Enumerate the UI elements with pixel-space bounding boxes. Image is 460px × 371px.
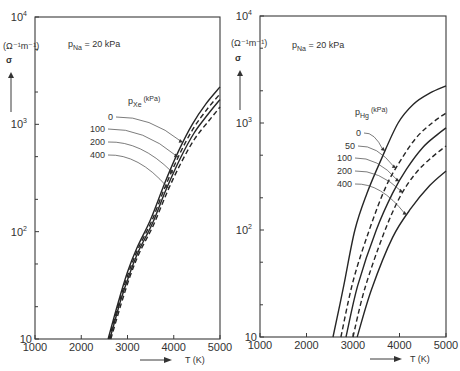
legend-label-0: 0 [356,128,361,138]
legend-label-200: 200 [90,137,105,147]
legend-label-0: 0 [108,112,113,122]
panel-right: 1000200030004000500010102103104(Ω⁻¹m⁻¹)σ… [231,9,458,364]
series-line-200 [110,100,220,339]
legend-leader-400 [355,184,405,214]
legend-arrow-icon [381,147,385,151]
condition-annotation: pNa = 20 kPa [68,39,120,51]
legend-label-400: 400 [337,179,352,189]
y-tick-label: 104 [11,10,27,23]
y-tick-label: 103 [236,116,252,129]
x-axis-label: T (K) [410,354,430,364]
series-line-400 [357,171,446,337]
y-axis-arrow-icon [8,72,14,78]
y-unit-label: (Ω⁻¹m⁻¹) [3,41,39,51]
legend-leader-0 [364,133,383,150]
condition-annotation: pNa = 20 kPa [292,40,344,52]
legend-label-400: 400 [90,150,105,160]
x-tick-label: 4000 [162,341,186,353]
x-tick-label: 5000 [434,339,458,351]
x-tick-label: 2000 [69,341,93,353]
x-tick-label: 3000 [341,339,365,351]
x-tick-label: 4000 [387,339,411,351]
y-tick-label: 103 [11,117,27,130]
y-unit-label: (Ω⁻¹m⁻¹) [231,38,267,48]
x-axis-arrow-icon [164,357,172,363]
x-tick-label: 5000 [208,341,232,353]
legend-title: pXe (kPa) [128,95,160,108]
y-tick-label: 102 [11,225,27,238]
legend-leader-200 [108,142,172,172]
legend-label-200: 200 [337,166,352,176]
x-tick-label: 2000 [294,339,318,351]
y-axis-arrow-icon [237,70,243,76]
legend-title: pHg (kPa) [355,106,388,120]
x-axis-label: T (K) [185,355,205,365]
legend-label-100: 100 [337,153,352,163]
plot-frame [35,17,220,339]
legend-label-100: 100 [90,124,105,134]
series-line-400 [111,107,220,339]
series-line-200 [353,146,446,337]
y-tick-label: 10 [20,333,32,345]
y-tick-label: 10 [245,331,257,343]
legend-label-50: 50 [345,141,355,151]
series-line-0 [333,86,446,337]
y-axis-label: σ [235,53,241,63]
panel-left: 1000200030004000500010102103104(Ω⁻¹m⁻¹)σ… [3,10,232,365]
legend-leader-50 [358,146,394,167]
y-axis-label: σ [6,55,12,65]
series-line-100 [346,128,446,337]
figure: 1000200030004000500010102103104(Ω⁻¹m⁻¹)σ… [0,0,460,371]
plot-frame [260,16,446,337]
series-line-0 [108,87,220,339]
y-tick-label: 102 [236,223,252,236]
legend-leader-200 [355,171,401,191]
y-tick-label: 104 [236,9,252,22]
x-tick-label: 3000 [115,341,139,353]
x-axis-arrow-icon [394,356,402,362]
